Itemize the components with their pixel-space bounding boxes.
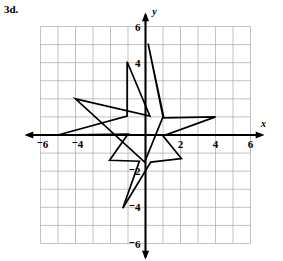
x-tick-label: 2 bbox=[178, 138, 184, 150]
y-tick-label: 6 bbox=[135, 21, 141, 33]
axis-layer bbox=[25, 13, 265, 260]
x-tick-label: ⁻4 bbox=[72, 138, 84, 150]
axis-arrowhead-right bbox=[256, 131, 265, 138]
axis-arrowhead-left bbox=[25, 131, 34, 138]
y-tick-label: ⁻2 bbox=[129, 165, 141, 177]
axis-arrowhead-up bbox=[142, 13, 149, 22]
axis-arrowhead-down bbox=[142, 251, 149, 260]
x-tick-label: ⁻6 bbox=[37, 138, 49, 150]
problem-number-label: 3d. bbox=[4, 3, 18, 15]
y-tick-label: ⁻6 bbox=[129, 238, 141, 250]
x-axis-name: x bbox=[260, 118, 266, 129]
y-tick-label: 4 bbox=[135, 57, 141, 69]
graph-svg: ⁻6⁻424664⁻2⁻4⁻6xy bbox=[0, 0, 283, 261]
axis-labels-layer: ⁻6⁻424664⁻2⁻4⁻6xy bbox=[37, 6, 266, 250]
coordinate-plane-figure: 3d. ⁻6⁻424664⁻2⁻4⁻6xy bbox=[0, 0, 283, 261]
y-tick-label: ⁻4 bbox=[129, 201, 141, 213]
y-axis-name: y bbox=[151, 6, 157, 17]
x-tick-label: 6 bbox=[248, 138, 254, 150]
x-tick-label: 4 bbox=[213, 138, 219, 150]
